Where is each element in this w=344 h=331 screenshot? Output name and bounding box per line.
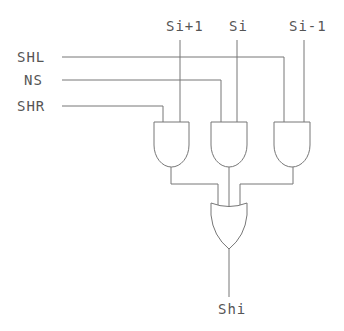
circuit-diagram: Si+1 Si Si-1 SHL NS SHR Shi [0,0,344,331]
and-gate-1 [154,122,189,167]
wire-and1-to-or [171,167,218,205]
wire-and3-to-or [240,167,293,205]
wire-shr [62,106,163,122]
label-shl: SHL [17,49,45,65]
or-gate [211,203,247,249]
label-si-plus-1: Si+1 [166,18,204,34]
label-si: Si [229,18,248,34]
label-shr: SHR [17,98,45,114]
label-ns: NS [24,72,43,88]
and-gate-2 [211,122,247,167]
label-si-minus-1: Si-1 [289,18,327,34]
wire-shl [62,57,284,122]
wire-ns [62,80,221,122]
and-gate-3 [274,122,310,167]
label-shi: Shi [218,301,246,317]
